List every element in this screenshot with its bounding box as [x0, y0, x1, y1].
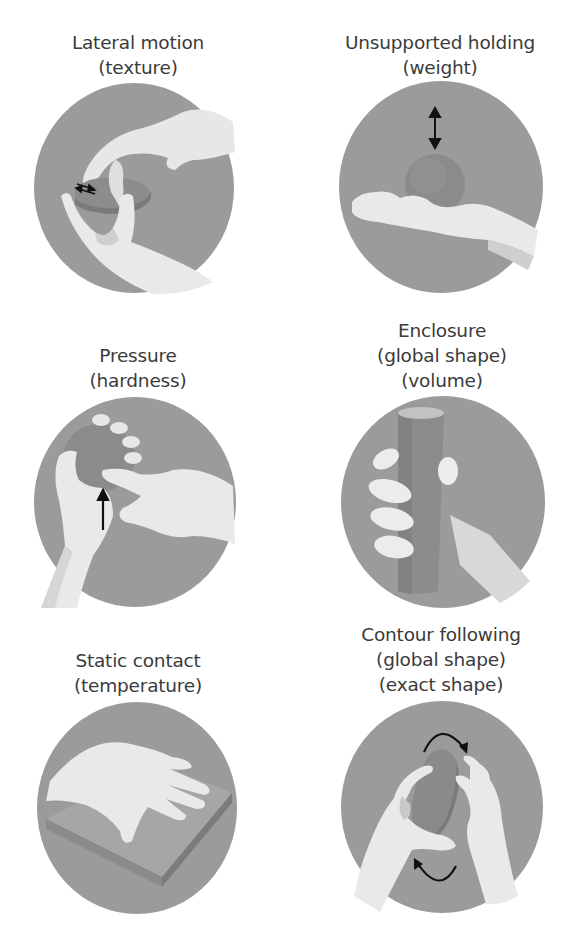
caption-unsupported-holding: Unsupported holding (weight): [330, 30, 550, 80]
property-label: (temperature): [28, 673, 248, 698]
property-label: (weight): [330, 55, 550, 80]
caption-pressure: Pressure (hardness): [38, 343, 238, 393]
procedure-label: Static contact: [28, 648, 248, 673]
property-label: (texture): [38, 55, 238, 80]
caption-enclosure: Enclosure (global shape) (volume): [332, 318, 552, 393]
property-label: (volume): [332, 368, 552, 393]
property-label: (hardness): [38, 368, 238, 393]
caption-static-contact: Static contact (temperature): [28, 648, 248, 698]
enclosure-illustration: [340, 395, 546, 609]
property-label: (global shape): [330, 647, 552, 672]
procedure-label: Enclosure: [332, 318, 552, 343]
unsupported-holding-illustration: [338, 80, 544, 294]
property-label: (global shape): [332, 343, 552, 368]
static-contact-illustration: [36, 701, 238, 915]
procedure-label: Lateral motion: [38, 30, 238, 55]
pressure-illustration: [33, 396, 237, 608]
procedure-label: Pressure: [38, 343, 238, 368]
contour-following-illustration: [340, 700, 544, 914]
caption-contour-following: Contour following (global shape) (exact …: [330, 622, 552, 697]
caption-lateral-motion: Lateral motion (texture): [38, 30, 238, 80]
property-label: (exact shape): [330, 672, 552, 697]
procedure-label: Unsupported holding: [330, 30, 550, 55]
procedure-label: Contour following: [330, 622, 552, 647]
lateral-motion-illustration: [33, 82, 235, 294]
